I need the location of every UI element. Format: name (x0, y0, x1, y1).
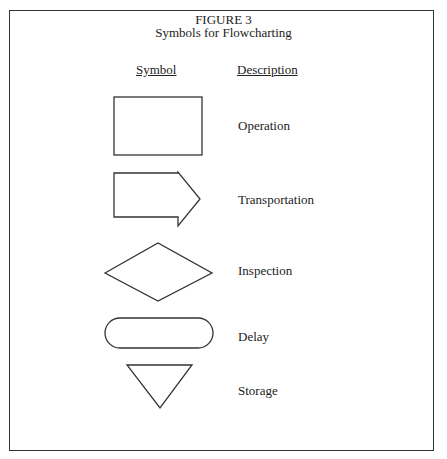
description-inspection: Inspection (238, 263, 292, 279)
delay-rounded-rectangle-icon (105, 318, 213, 348)
description-storage: Storage (238, 383, 278, 399)
description-delay: Delay (238, 329, 269, 345)
operation-rectangle-icon (114, 97, 202, 155)
inspection-diamond-icon (105, 243, 212, 301)
transportation-arrow-icon (114, 172, 200, 226)
flowchart-symbols (0, 0, 447, 459)
description-operation: Operation (238, 118, 290, 134)
description-transportation: Transportation (238, 192, 314, 208)
storage-inverted-triangle-icon (127, 365, 192, 408)
